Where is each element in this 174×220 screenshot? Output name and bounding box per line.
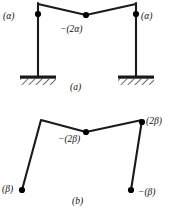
panel-a-left-node-label: (α)	[3, 12, 14, 22]
panel-a-left-joint-node	[35, 11, 41, 17]
panel-a-center-node-label: −(2α)	[60, 25, 82, 35]
panel-a-right-support	[118, 76, 154, 85]
panel-b-caption: (b)	[72, 197, 83, 207]
panel-a	[20, 3, 154, 85]
panel-b-center-node-label: −(2β)	[58, 135, 80, 145]
right-support-bar	[118, 76, 154, 79]
panel-b	[19, 119, 145, 193]
panel-b-lower-right-node	[128, 187, 134, 193]
figure-root: (α) (α) −(2α) (a) (2β) −(2β) (β) −(β) (b…	[0, 0, 174, 220]
panel-a-right-node-label: (α)	[141, 12, 152, 22]
left-support-hatch	[20, 79, 56, 85]
panel-b-frame	[22, 120, 142, 190]
right-support-hatch	[118, 79, 154, 85]
panel-a-center-joint-node	[83, 12, 89, 18]
panel-b-lower-right-node-label: −(β)	[138, 188, 155, 198]
panel-b-upper-right-node-label: (2β)	[146, 117, 162, 127]
panel-a-left-support	[20, 76, 56, 85]
panel-b-lower-left-node	[19, 187, 25, 193]
left-support-bar	[20, 76, 56, 79]
panel-a-right-joint-node	[133, 11, 139, 17]
panel-a-caption: (a)	[70, 83, 81, 93]
panel-b-lower-left-node-label: (β)	[2, 185, 13, 195]
panel-b-upper-right-joint-node	[139, 119, 145, 125]
panel-b-center-joint-node	[83, 129, 89, 135]
